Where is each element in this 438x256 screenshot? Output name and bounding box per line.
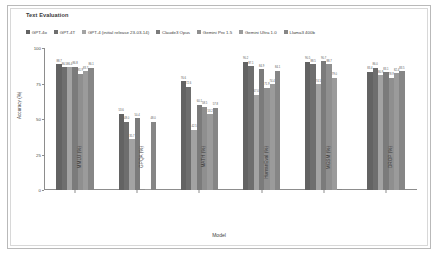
bar-group-bars: 76.672.642.560.158.553.257.8 xyxy=(168,48,230,190)
x-axis-category-label: MATH (%) xyxy=(201,146,206,168)
bar-group: 90.287.167.084.971.974.484.1 xyxy=(231,48,293,190)
legend-item-label: Gemini Pro 1.5 xyxy=(203,30,232,35)
legend-item[interactable]: Claude3 Opus xyxy=(156,30,190,35)
bar-column[interactable]: 83.5 xyxy=(399,48,404,190)
bar-column[interactable]: 86.1 xyxy=(88,48,93,190)
legend-item-label: GPT-4o xyxy=(32,30,47,35)
legend-item[interactable]: GPT-4T xyxy=(54,30,75,35)
bar-group: 88.786.586.486.881.983.786.1 xyxy=(44,48,106,190)
bar[interactable] xyxy=(151,122,156,190)
bar-value-label: 57.8 xyxy=(213,103,218,106)
bar[interactable] xyxy=(399,71,404,190)
plot-inner: 025507510088.786.586.486.881.983.786.153… xyxy=(44,48,417,190)
legend-swatch-icon xyxy=(82,30,86,34)
bar-group: 76.672.642.560.158.553.257.8 xyxy=(168,48,230,190)
bar-group: 83.486.080.983.178.982.483.5 xyxy=(355,48,417,190)
x-axis-tick-mark xyxy=(261,190,262,193)
bar[interactable] xyxy=(88,68,93,190)
x-axis-tick-mark xyxy=(385,190,386,193)
legend-item-label: GPT-4 (initial release 23-03-14) xyxy=(88,30,149,35)
bar-value-label: 83.5 xyxy=(399,67,404,70)
legend-item[interactable]: Gemini Pro 1.5 xyxy=(197,30,232,35)
legend-swatch-icon xyxy=(284,30,288,34)
x-axis-tick-mark xyxy=(199,190,200,193)
legend-item[interactable]: GPT-4 (initial release 23-03-14) xyxy=(82,30,149,35)
y-axis-tick-label: 75 xyxy=(28,81,41,86)
legend-item-label: Gemini Ultra 1.0 xyxy=(245,30,277,35)
legend-swatch-icon xyxy=(54,30,58,34)
x-axis-tick-mark xyxy=(137,190,138,193)
y-axis-title: Accuracy (%) xyxy=(17,92,22,119)
x-axis-tick-mark xyxy=(75,190,76,193)
bar-value-label: 84.1 xyxy=(275,66,280,69)
x-axis-category-label: MGSM (%) xyxy=(326,146,331,169)
legend-item-label: Claude3 Opus xyxy=(162,30,190,35)
bar-column[interactable]: 57.8 xyxy=(213,48,218,190)
legend-swatch-icon xyxy=(197,30,201,34)
y-axis-tick-label: 25 xyxy=(28,152,41,157)
x-axis-category-label: HumanEval (%) xyxy=(264,146,269,179)
chart-page: Text Evaluation GPT-4oGPT-4TGPT-4 (initi… xyxy=(0,0,438,256)
legend-swatch-icon xyxy=(239,30,243,34)
bar[interactable] xyxy=(275,71,280,190)
page-title: Text Evaluation xyxy=(26,12,68,18)
bar-column[interactable]: 48.0 xyxy=(151,48,156,190)
bar-value-label: 86.1 xyxy=(88,63,93,66)
x-axis-category-label: MMLU (%) xyxy=(77,146,82,168)
legend-item[interactable]: GPT-4o xyxy=(26,30,47,35)
x-axis-title: Model xyxy=(0,232,438,238)
bar-column[interactable]: 84.1 xyxy=(275,48,280,190)
legend-item-label: GPT-4T xyxy=(60,30,75,35)
x-axis-tick-mark xyxy=(323,190,324,193)
bar-group-bars: 83.486.080.983.178.982.483.5 xyxy=(355,48,417,190)
legend-item[interactable]: Llama3 400b xyxy=(284,30,315,35)
chart-legend: GPT-4oGPT-4TGPT-4 (initial release 23-03… xyxy=(26,28,315,36)
plot-area: 025507510088.786.586.486.881.983.786.153… xyxy=(44,48,417,190)
x-axis-category-label: DROP (%) xyxy=(388,146,393,168)
legend-item-label: Llama3 400b xyxy=(289,30,314,35)
y-axis-tick-label: 0 xyxy=(28,188,41,193)
x-axis-category-label: GPQA (%) xyxy=(139,146,144,168)
bar[interactable] xyxy=(213,108,218,190)
legend-swatch-icon xyxy=(26,30,30,34)
legend-swatch-icon xyxy=(156,30,160,34)
bar-group: 90.588.574.590.788.779.0 xyxy=(293,48,355,190)
bar-group: 53.648.035.750.448.0 xyxy=(106,48,168,190)
bar[interactable] xyxy=(337,189,342,190)
bar-group-bars: 88.786.586.486.881.983.786.1 xyxy=(44,48,106,190)
bar-group-bars: 90.588.574.590.788.779.0 xyxy=(293,48,355,190)
legend-item[interactable]: Gemini Ultra 1.0 xyxy=(239,30,277,35)
bar-column[interactable] xyxy=(337,48,342,190)
y-axis-tick-label: 100 xyxy=(28,46,41,51)
y-axis-tick-mark xyxy=(42,190,45,191)
y-axis-tick-label: 50 xyxy=(28,117,41,122)
bar-value-label: 48.0 xyxy=(151,117,156,120)
bar-group-bars: 90.287.167.084.971.974.484.1 xyxy=(231,48,293,190)
bar-group-bars: 53.648.035.750.448.0 xyxy=(106,48,168,190)
